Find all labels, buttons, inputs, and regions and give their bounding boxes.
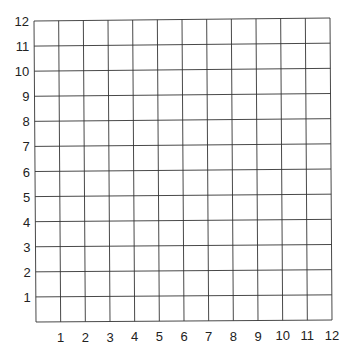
coordinate-grid: 123456789101112 123456789101112 — [0, 0, 351, 359]
x-tick-label: 2 — [82, 330, 89, 345]
x-tick-label: 11 — [301, 328, 315, 343]
y-tick-label: 4 — [23, 215, 30, 230]
y-axis-labels: 123456789101112 — [15, 14, 31, 305]
x-tick-label: 7 — [205, 329, 212, 344]
y-tick-label: 5 — [23, 190, 30, 205]
y-tick-label: 3 — [23, 240, 30, 255]
y-tick-label: 7 — [23, 139, 30, 154]
x-tick-label: 6 — [180, 329, 187, 344]
y-tick-label: 8 — [22, 114, 29, 129]
x-tick-label: 9 — [254, 329, 261, 344]
y-tick-label: 10 — [15, 64, 29, 79]
grid-lines — [34, 18, 332, 322]
y-tick-label: 2 — [23, 265, 30, 280]
y-tick-label: 11 — [16, 39, 30, 54]
x-tick-label: 12 — [325, 328, 339, 343]
x-tick-label: 8 — [230, 329, 237, 344]
x-axis-labels: 123456789101112 — [57, 328, 339, 345]
y-tick-label: 6 — [23, 165, 30, 180]
y-tick-label: 12 — [15, 14, 29, 29]
x-tick-label: 10 — [275, 328, 289, 343]
y-tick-label: 9 — [22, 89, 29, 104]
x-tick-label: 4 — [131, 329, 138, 344]
y-tick-label: 1 — [24, 290, 31, 305]
x-tick-label: 3 — [106, 330, 113, 345]
x-tick-label: 5 — [156, 329, 163, 344]
x-tick-label: 1 — [57, 330, 64, 345]
grid-canvas: 123456789101112 123456789101112 — [0, 0, 351, 359]
